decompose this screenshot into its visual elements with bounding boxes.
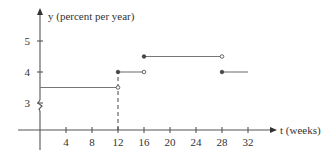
x-tick-label: 28: [217, 136, 229, 148]
x-tick-label: 16: [139, 136, 151, 148]
y-axis-break-icon: [38, 100, 42, 111]
closed-dot-icon: [142, 55, 146, 59]
x-axis-label: t (weeks): [280, 124, 321, 137]
step-chart: 48121620242832345 y (percent per year) t…: [0, 0, 333, 158]
closed-dot-icon: [220, 70, 224, 74]
x-tick-label: 4: [63, 136, 69, 148]
y-tick-label: 5: [25, 35, 31, 47]
plot-area: [40, 55, 248, 130]
x-tick-label: 32: [243, 136, 254, 148]
y-tick-label: 4: [25, 66, 31, 78]
closed-dot-icon: [116, 70, 120, 74]
x-tick-label: 8: [89, 136, 95, 148]
x-tick-label: 24: [191, 136, 203, 148]
open-dot-icon: [220, 55, 224, 59]
y-axis-label: y (percent per year): [48, 10, 135, 23]
y-axis-arrow-icon: [37, 8, 43, 15]
x-tick-label: 20: [165, 136, 177, 148]
y-tick-label: 3: [25, 97, 31, 109]
x-tick-label: 12: [113, 136, 124, 148]
open-dot-icon: [142, 70, 146, 74]
open-dot-icon: [116, 86, 120, 90]
x-axis-arrow-icon: [270, 127, 277, 133]
axes: 48121620242832345: [18, 8, 277, 150]
